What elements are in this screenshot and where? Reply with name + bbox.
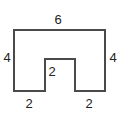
dimension-label-top-width: 6: [51, 13, 65, 26]
geometry-figure: 6 4 4 2 2 2: [0, 0, 124, 123]
dimension-label-right-height: 4: [106, 51, 120, 64]
dimension-label-notch-height: 2: [45, 65, 59, 78]
dimension-label-bottom-left-width: 2: [22, 97, 36, 110]
shape-outline-path: [14, 30, 105, 91]
dimension-label-bottom-right-width: 2: [82, 97, 96, 110]
dimension-label-left-height: 4: [0, 51, 14, 64]
